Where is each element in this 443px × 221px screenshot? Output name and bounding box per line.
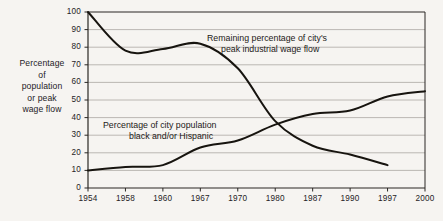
x-tick-label-1997: 1997	[371, 194, 405, 203]
annotation-population-line-2: black and/or Hispanic	[103, 131, 216, 142]
annotation-wage-flow-line-2: peak industrial wage flow	[207, 44, 327, 55]
annotation-wage-flow: Remaining percentage of city's peak indu…	[207, 33, 327, 56]
y-tick-label-80: 80	[57, 42, 81, 51]
y-tick-label-40: 40	[57, 113, 81, 122]
x-tick-label-1980: 1980	[258, 194, 292, 203]
x-tick-label-2000: 2000	[408, 194, 442, 203]
y-tick-label-90: 90	[57, 25, 81, 34]
x-tick-label-1990: 1990	[333, 194, 367, 203]
y-tick-label-10: 10	[57, 165, 81, 174]
chart-figure: Percentage of population or peak wage fl…	[0, 0, 443, 221]
y-tick-label-20: 20	[57, 148, 81, 157]
x-tick-label-1954: 1954	[71, 194, 105, 203]
x-tick-label-1960: 1960	[146, 194, 180, 203]
x-tick-label-1987: 1987	[296, 194, 330, 203]
x-tick-label-1967: 1967	[183, 194, 217, 203]
y-tick-label-0: 0	[57, 183, 81, 192]
annotation-population: Percentage of city population black and/…	[103, 120, 216, 143]
y-tick-label-50: 50	[57, 95, 81, 104]
y-tick-label-100: 100	[57, 7, 81, 16]
y-tick-label-70: 70	[57, 60, 81, 69]
y-tick-label-60: 60	[57, 77, 81, 86]
x-tick-label-1970: 1970	[221, 194, 255, 203]
annotation-population-line-1: Percentage of city population	[103, 120, 216, 131]
annotation-wage-flow-line-1: Remaining percentage of city's	[207, 33, 327, 44]
x-tick-label-1958: 1958	[108, 194, 142, 203]
y-tick-label-30: 30	[57, 130, 81, 139]
